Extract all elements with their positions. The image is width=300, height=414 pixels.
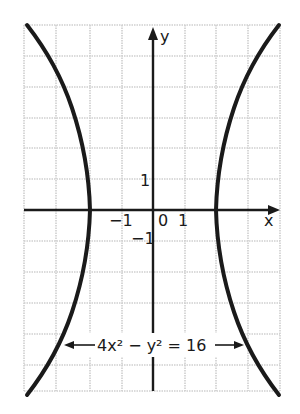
tick-label-x-neg-one: −1 [109, 211, 133, 230]
equation-label: 4x² − y² = 16 [97, 336, 206, 355]
tick-label-y-pos-one: 1 [140, 171, 150, 190]
hyperbola-graph: y x 1 −1 0 1 −1 4x² − y² = 16 [0, 0, 300, 414]
x-axis-label: x [264, 211, 273, 230]
tick-label-x-pos-one: 1 [178, 211, 188, 230]
tick-label-y-neg-one: −1 [131, 229, 155, 248]
y-axis-label: y [160, 27, 169, 46]
y-axis-arrow-icon [148, 27, 158, 40]
tick-label-origin: 0 [158, 211, 168, 230]
